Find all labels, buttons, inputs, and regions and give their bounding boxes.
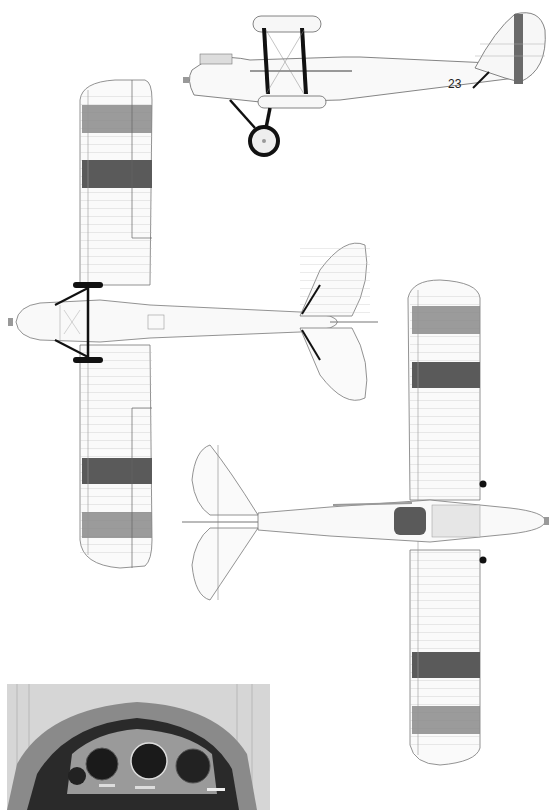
gauge-icon <box>131 743 167 779</box>
gauge-icon <box>176 749 210 783</box>
side-view: 23 <box>183 13 545 155</box>
gauge-icon <box>86 748 118 780</box>
top-view-upper-wing <box>8 80 378 568</box>
fuselage-number: 23 <box>448 77 462 91</box>
cockpit-photo <box>7 684 270 810</box>
